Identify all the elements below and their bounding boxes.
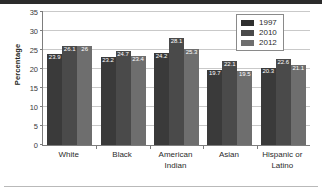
x-axis-tick-mark (96, 145, 97, 149)
y-axis-tick-label: 10 (30, 103, 38, 112)
bar-value-label: 24.2 (155, 52, 168, 60)
bar-value-label: 19.7 (209, 69, 222, 77)
bar[interactable]: 23.4 (131, 56, 146, 145)
bar-group: 23.926.126 (43, 12, 96, 145)
x-axis-category-line: Indian (149, 161, 202, 172)
bar[interactable]: 22.1 (222, 61, 237, 145)
bar-value-label: 22.6 (277, 58, 290, 66)
bar-value-label: 25.3 (185, 48, 198, 56)
bar-value-label: 23.2 (102, 56, 115, 64)
bar-value-label: 20.3 (262, 67, 275, 75)
x-axis-category-line: Hispanic or (256, 150, 309, 161)
bar-value-label: 26.1 (63, 45, 76, 53)
top-divider (0, 0, 322, 4)
y-axis-tick-label: 30 (30, 27, 38, 36)
legend-item[interactable]: 2012 (241, 38, 277, 47)
chart-legend: 199720102012 (236, 14, 284, 51)
x-axis-category-label: Hispanic orLatino (256, 150, 309, 171)
bar-chart-figure: Percentage 0510152025303523.926.12623.22… (0, 0, 322, 192)
bar-value-label: 19.5 (239, 70, 252, 78)
bar[interactable]: 26.1 (62, 46, 77, 145)
y-axis-tick-label: 20 (30, 65, 38, 74)
x-axis-category-line: Asian (202, 150, 255, 161)
bar-value-label: 28.1 (170, 37, 183, 45)
x-axis-category-line: Black (95, 150, 148, 161)
bar[interactable]: 26 (77, 46, 92, 145)
legend-swatch-icon (241, 20, 254, 26)
bar-value-label: 21.1 (292, 64, 305, 72)
legend-label: 1997 (259, 18, 277, 27)
legend-swatch-icon (241, 30, 254, 36)
legend-label: 2012 (259, 38, 277, 47)
bar[interactable]: 19.5 (237, 71, 252, 145)
bar[interactable]: 23.9 (47, 54, 62, 145)
bar[interactable]: 25.3 (184, 49, 199, 145)
y-axis-tick-label: 25 (30, 46, 38, 55)
bar-group: 23.224.723.4 (96, 12, 149, 145)
bar[interactable]: 23.2 (101, 57, 116, 145)
bar[interactable]: 28.1 (169, 38, 184, 145)
x-axis-tick-mark (203, 145, 204, 149)
bar[interactable]: 24.2 (154, 53, 169, 145)
x-axis-category-line: Latino (256, 161, 309, 172)
y-axis-title: Percentage (13, 30, 22, 100)
y-axis-tick-label: 0 (34, 141, 38, 150)
bar-value-label: 23.9 (48, 53, 61, 61)
bar[interactable]: 20.3 (261, 68, 276, 145)
x-axis-category-line: White (42, 150, 95, 161)
x-axis-category-label: Black (95, 150, 148, 161)
bar[interactable]: 19.7 (207, 70, 222, 145)
legend-item[interactable]: 1997 (241, 18, 277, 27)
x-axis-category-label: Asian (202, 150, 255, 161)
x-axis-tick-mark (257, 145, 258, 149)
legend-item[interactable]: 2010 (241, 28, 277, 37)
bar[interactable]: 22.6 (276, 59, 291, 145)
bar[interactable]: 21.1 (291, 65, 306, 145)
x-axis-tick-mark (150, 145, 151, 149)
bar-value-label: 24.7 (117, 50, 130, 58)
bar-group: 24.228.125.3 (150, 12, 203, 145)
x-axis-category-line: American (149, 150, 202, 161)
legend-label: 2010 (259, 28, 277, 37)
y-axis-tick-label: 5 (34, 122, 38, 131)
bar-value-label: 26 (81, 45, 89, 53)
bottom-divider (4, 186, 318, 187)
y-axis-tick-label: 35 (30, 8, 38, 17)
y-axis-tick-label: 15 (30, 84, 38, 93)
bar-value-label: 23.4 (132, 55, 145, 63)
legend-swatch-icon (241, 40, 254, 46)
bar-value-label: 22.1 (224, 60, 237, 68)
bar[interactable]: 24.7 (116, 51, 131, 145)
x-axis-category-label: AmericanIndian (149, 150, 202, 171)
x-axis-category-label: White (42, 150, 95, 161)
